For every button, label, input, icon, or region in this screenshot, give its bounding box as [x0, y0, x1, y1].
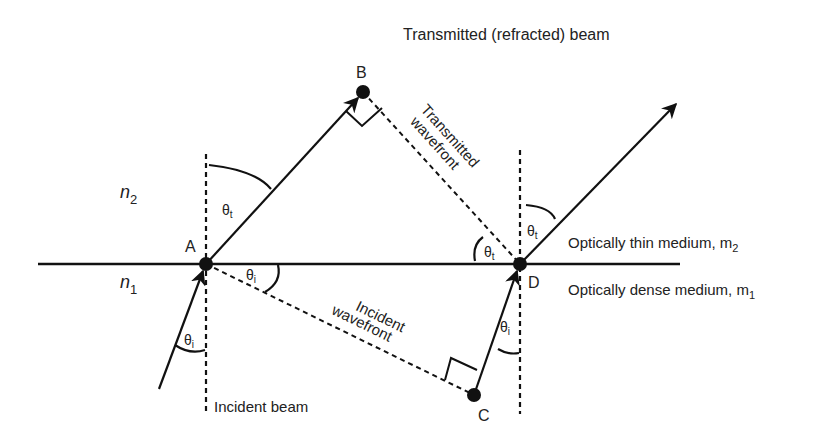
angle-arc-theta-t-d-left: [474, 237, 483, 261]
incident-beam-arrow-cd: [474, 271, 517, 395]
angle-label-theta-t-a: θt: [222, 202, 233, 220]
point-label-a: A: [185, 238, 196, 255]
point-label-c: C: [478, 407, 490, 424]
index-label-n1: n1: [120, 272, 137, 297]
angle-arc-theta-t-d-right: [526, 205, 555, 219]
right-angle-marker-b: [346, 108, 382, 126]
angle-label-theta-i-a-upper: θi: [246, 267, 256, 285]
angle-label-theta-i-a-lower: θi: [184, 332, 194, 350]
incident-beam-label: Incident beam: [214, 398, 308, 415]
dense-medium-label: Optically dense medium, m1: [568, 281, 755, 301]
angle-label-theta-t-d-right: θt: [527, 223, 538, 241]
point-b: [356, 85, 370, 99]
angle-label-theta-t-d-left: θt: [484, 244, 495, 262]
transmitted-wavefront-label: Transmitted wavefront: [406, 101, 483, 182]
point-d: [513, 257, 527, 271]
angle-arc-theta-i-a-upper: [265, 265, 279, 292]
diagram-title: Transmitted (refracted) beam: [403, 26, 610, 43]
index-label-n2: n2: [120, 182, 137, 207]
angle-label-theta-i-d: θi: [500, 319, 510, 337]
thin-medium-label: Optically thin medium, m2: [568, 234, 738, 254]
incident-beam-arrow-a: [159, 271, 203, 389]
transmitted-beam-arrow-ab: [206, 98, 358, 264]
point-label-b: B: [356, 64, 367, 81]
incident-wavefront-line: [206, 264, 474, 395]
refraction-diagram: Transmitted (refracted) beam A B C D n2 …: [0, 0, 821, 444]
point-a: [199, 257, 213, 271]
point-c: [467, 388, 481, 402]
point-label-d: D: [528, 274, 540, 291]
angle-arc-theta-i-d: [498, 349, 519, 354]
angle-arc-theta-t-a: [209, 165, 271, 189]
incident-wavefront-label: Incident wavefront: [328, 288, 408, 348]
right-angle-marker-c: [445, 358, 477, 380]
